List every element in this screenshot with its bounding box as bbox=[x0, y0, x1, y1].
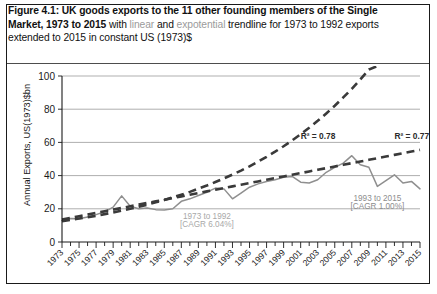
x-tick-label: 1981 bbox=[113, 247, 134, 268]
x-tick-label: 1993 bbox=[215, 247, 236, 268]
caption-divider bbox=[7, 63, 429, 64]
x-tick-label: 1985 bbox=[147, 247, 168, 268]
figure-container: Figure 4.1: UK goods exports to the 11 o… bbox=[0, 0, 437, 294]
x-tick-label: 1977 bbox=[79, 247, 100, 268]
x-tick-label: 1991 bbox=[198, 247, 219, 268]
x-tick-label: 1983 bbox=[130, 247, 151, 268]
caption-segment-expotential: expotential bbox=[177, 19, 226, 30]
y-tick-label: 60 bbox=[44, 137, 56, 148]
annotation-r2-linear: R² = 0.77 bbox=[394, 131, 429, 141]
caption-segment-with: with bbox=[106, 19, 129, 30]
y-axis-label: Annual Exports, US(1973)$bn bbox=[22, 80, 32, 210]
x-tick-label: 2003 bbox=[301, 247, 322, 268]
annotation-late-period-line2: [CAGR 1.00%] bbox=[351, 202, 405, 211]
x-tick-label: 2007 bbox=[335, 247, 356, 268]
x-tick-label: 1999 bbox=[266, 247, 287, 268]
x-tick-label: 2009 bbox=[352, 247, 373, 268]
x-tick-label: 1995 bbox=[232, 247, 253, 268]
x-tick-label: 1997 bbox=[249, 247, 270, 268]
y-tick-label: 100 bbox=[38, 71, 55, 82]
y-tick-label: 80 bbox=[44, 104, 56, 115]
bottom-strip bbox=[0, 286, 437, 294]
x-tick-label: 2011 bbox=[369, 247, 389, 267]
caption-segment-linear: linear bbox=[130, 19, 155, 30]
y-tick-label: 0 bbox=[49, 237, 55, 248]
x-tick-label: 1979 bbox=[96, 247, 117, 268]
x-ticks-group: 1973197519771979198119831985198719891991… bbox=[45, 242, 424, 268]
y-tick-label: 40 bbox=[44, 170, 56, 181]
chart-svg: 020406080100 197319751977197919811983198… bbox=[6, 66, 430, 282]
annotation-r2-exponential: R² = 0.78 bbox=[301, 131, 336, 141]
x-tick-label: 2015 bbox=[403, 247, 424, 268]
caption-segment-and: and bbox=[154, 19, 176, 30]
gridlines-group bbox=[62, 76, 420, 209]
x-tick-label: 2005 bbox=[318, 247, 339, 268]
y-tick-label: 20 bbox=[44, 203, 56, 214]
x-tick-label: 2013 bbox=[386, 247, 407, 268]
x-tick-label: 1987 bbox=[164, 247, 185, 268]
y-ticks-group: 020406080100 bbox=[38, 71, 62, 248]
chart-plot-area: Annual Exports, US(1973)$bn 020406080100… bbox=[6, 66, 430, 282]
annotation-early-period-line2: [CAGR 6.04%] bbox=[180, 220, 234, 229]
figure-caption: Figure 4.1: UK goods exports to the 11 o… bbox=[8, 4, 414, 45]
x-tick-label: 1975 bbox=[62, 247, 83, 268]
x-tick-label: 2001 bbox=[283, 247, 304, 268]
x-tick-label: 1989 bbox=[181, 247, 202, 268]
series-line-trend-1 bbox=[62, 66, 377, 221]
x-tick-label: 1973 bbox=[45, 247, 66, 268]
